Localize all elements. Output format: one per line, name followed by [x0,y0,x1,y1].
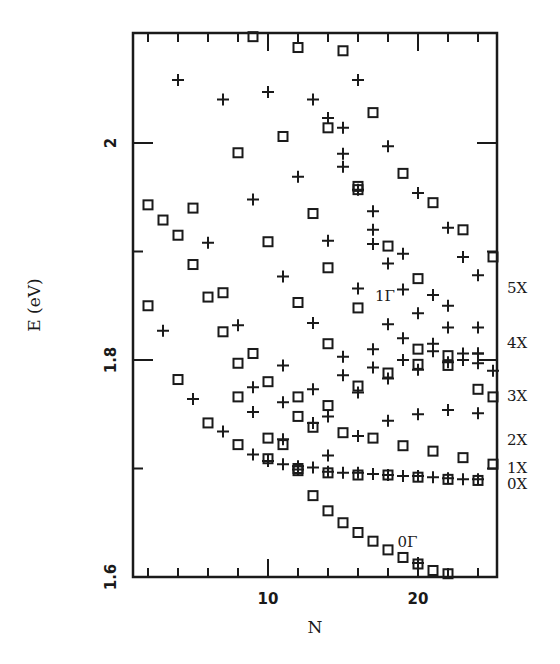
square-marker [234,148,243,157]
square-marker [369,434,378,443]
y-tick-label: 1.8 [102,347,120,374]
square-marker [414,345,423,354]
square-marker [264,434,273,443]
square-marker [339,46,348,55]
cross-marker [472,321,484,333]
cross-marker [337,467,349,479]
x-tick-label: 20 [408,590,429,608]
y-tick-label: 2 [102,138,120,148]
square-marker [459,453,468,462]
x-axis-label: N [308,617,323,637]
cross-marker [442,300,454,312]
square-marker [279,132,288,141]
cross-marker [232,319,244,331]
cross-marker [397,283,409,295]
cross-marker [382,140,394,152]
axis-tick-labels: 10201.61.82 [102,138,428,608]
cross-marker [322,235,334,247]
cross-marker [337,161,349,173]
square-marker [399,441,408,450]
series-label: 5X [507,279,528,297]
square-marker [159,216,168,225]
square-marker [429,447,438,456]
square-marker [384,242,393,251]
cross-marker [337,122,349,134]
square-marker [174,231,183,240]
cross-marker [457,354,469,366]
square-marker [369,537,378,546]
cross-marker [292,171,304,183]
square-marker [249,349,258,358]
cross-marker [322,449,334,461]
cross-marker [262,86,274,98]
square-marker [399,169,408,178]
cross-marker [307,461,319,473]
cross-marker [307,94,319,106]
cross-marker [367,205,379,217]
cross-marker [442,404,454,416]
cross-marker [277,359,289,371]
square-marker [324,123,333,132]
series-label: 0Γ [398,533,418,551]
series-label: 3X [507,387,528,405]
cross-marker [337,351,349,363]
cross-marker [397,354,409,366]
square-marker [264,377,273,386]
square-marker [264,237,273,246]
square-marker [144,301,153,310]
cross-marker [427,289,439,301]
square-marker [234,359,243,368]
square-marker [219,327,228,336]
cross-marker [427,345,439,357]
square-marker [384,545,393,554]
cross-marker [397,470,409,482]
cross-marker [172,74,184,86]
square-marker [474,385,483,394]
cross-marker [367,224,379,236]
square-marker [309,491,318,500]
cross-marker [442,222,454,234]
square-marker [324,339,333,348]
square-marker [429,566,438,575]
cross-marker [382,415,394,427]
square-marker [204,418,213,427]
cross-marker [337,369,349,381]
x-tick-label: 10 [258,590,279,608]
square-marker [354,303,363,312]
cross-marker [247,406,259,418]
square-marker [294,412,303,421]
square-marker [354,528,363,537]
cross-marker [397,248,409,260]
cross-marker [352,282,364,294]
cross-marker [277,458,289,470]
square-marker [339,428,348,437]
square-marker [399,553,408,562]
cross-marker [157,325,169,337]
chart: 10201.61.82 5X4X3X2X1X0X1Γ0Γ N E (eV) [0,0,560,664]
square-marker [189,204,198,213]
cross-marker [367,238,379,250]
cross-marker [247,193,259,205]
cross-marker [352,74,364,86]
square-marker [309,209,318,218]
square-marker [234,440,243,449]
cross-marker [352,430,364,442]
series-label: 0X [507,475,528,493]
square-marker [459,225,468,234]
cross-marker [322,112,334,124]
series-label: 2X [507,431,528,449]
cross-marker [307,317,319,329]
cross-marker [427,471,439,483]
square-marker [144,200,153,209]
square-marker [324,401,333,410]
cross-marker [277,396,289,408]
square-marker [189,260,198,269]
cross-marker [472,347,484,359]
square-marker [204,293,213,302]
cross-marker [457,251,469,263]
cross-marker [367,468,379,480]
cross-marker [202,237,214,249]
cross-marker [472,269,484,281]
cross-marker [397,332,409,344]
data-markers [144,32,500,578]
